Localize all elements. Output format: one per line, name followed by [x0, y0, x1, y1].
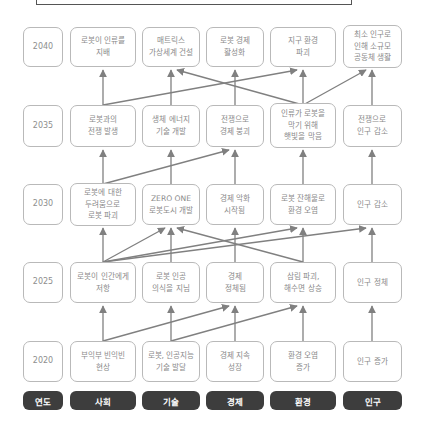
year-2020: 2020 — [23, 341, 63, 382]
header-year: 연도 — [23, 391, 63, 410]
arrow-edge — [103, 70, 297, 105]
arrow-edge — [171, 306, 297, 341]
arrow-edge — [103, 306, 229, 341]
node-2040-technology: 매트릭스 가상세계 건설 — [142, 27, 200, 67]
node-2020-environment: 환경 오염 증가 — [270, 341, 336, 382]
node-2020-society: 부익부 빈익빈 현상 — [70, 341, 136, 382]
node-2035-population: 전쟁으로 인구 감소 — [343, 105, 402, 147]
year-2030: 2030 — [23, 184, 63, 225]
node-2030-population: 인구 감소 — [343, 184, 402, 225]
node-2030-society: 로봇에 대한 두려움으로 로봇 파괴 — [70, 183, 136, 226]
node-2035-economy: 전쟁으로 경제 붕괴 — [206, 105, 264, 147]
arrow-edge — [303, 70, 366, 105]
node-2025-environment: 삼림 파괴, 해수면 상승 — [270, 262, 336, 303]
node-2025-technology: 로봇 인공 의식을 지님 — [142, 262, 200, 303]
node-2020-economy: 경제 지속 성장 — [206, 341, 264, 382]
node-2030-environment: 로봇 잔해물로 환경 오염 — [270, 184, 336, 225]
header-society: 사회 — [70, 391, 136, 410]
node-2040-society: 로봇이 인류를 지배 — [70, 27, 136, 67]
node-2035-society: 로봇과의 전쟁 발생 — [70, 105, 136, 147]
year-2035: 2035 — [23, 105, 63, 147]
node-2040-population: 최소 인구로 인해 소규모 공동체 생활 — [343, 25, 402, 68]
node-2035-technology: 생체 에너지 기술 개발 — [142, 105, 200, 147]
top-frame-border — [36, 0, 352, 5]
node-2040-environment: 지구 환경 파괴 — [270, 27, 336, 67]
node-2035-environment: 인류가 로봇을 막기 위해 햇빛을 막음 — [270, 103, 336, 148]
header-technology: 기술 — [142, 391, 200, 410]
year-2040: 2040 — [23, 27, 63, 67]
header-environment: 환경 — [270, 391, 336, 410]
header-population: 인구 — [343, 391, 402, 410]
arrow-edge — [177, 70, 303, 105]
header-economy: 경제 — [206, 391, 264, 410]
year-2025: 2025 — [23, 262, 63, 303]
node-2025-society: 로봇이 인간에게 저항 — [70, 262, 136, 303]
node-2025-economy: 경제 정체됨 — [206, 262, 264, 303]
node-2040-economy: 로봇 경제 활성화 — [206, 27, 264, 67]
arrow-edge — [103, 228, 165, 262]
arrow-edge — [103, 228, 366, 262]
arrow-edge — [103, 228, 297, 262]
arrow-edge — [177, 228, 303, 262]
node-2030-technology: ZERO ONE 로봇도시 개발 — [142, 184, 200, 225]
node-2030-economy: 경제 악화 시작됨 — [206, 184, 264, 225]
node-2025-population: 인구 정체 — [343, 262, 402, 303]
arrow-edge — [103, 150, 229, 184]
node-2020-technology: 로봇, 인공지능 기술 발달 — [142, 341, 200, 382]
node-2020-population: 인구 증가 — [343, 341, 402, 382]
